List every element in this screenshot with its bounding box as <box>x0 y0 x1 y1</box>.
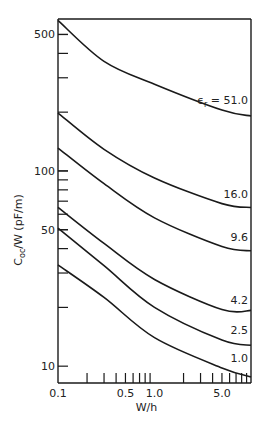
series-labels: ϵr = 51.016.09.64.22.51.0 <box>197 94 248 365</box>
x-axis-tick-labels: 0.10.51.05.0 <box>49 387 230 400</box>
y-tick-label: 100 <box>34 165 55 178</box>
series-label-value: = 51.0 <box>207 94 248 107</box>
x-tick-label: 0.1 <box>49 387 67 400</box>
x-tick-label: 0.5 <box>117 387 135 400</box>
y-tick-label: 500 <box>34 28 55 41</box>
x-axis-title: W/h <box>136 401 158 414</box>
y-axis-tick-labels: 1050100500 <box>34 28 55 373</box>
series-label: 9.6 <box>231 231 249 244</box>
y-axis-title-rest: /W (pF/m) <box>12 194 25 248</box>
series-curve <box>58 228 251 345</box>
plot-frame <box>58 19 251 383</box>
series-label: ϵr = 51.0 <box>197 94 248 109</box>
x-tick-label: 5.0 <box>213 387 231 400</box>
series-label-symbol: ϵ <box>197 94 204 107</box>
chart-canvas: 0.10.51.05.0 1050100500 ϵr = 51.016.09.6… <box>0 0 265 428</box>
y-tick-label: 50 <box>41 224 55 237</box>
series-curve <box>58 207 251 312</box>
series-curve <box>58 113 251 207</box>
series-curve <box>58 148 251 251</box>
series-curves <box>58 20 251 377</box>
series-label: 1.0 <box>231 352 249 365</box>
series-curve <box>58 265 251 377</box>
y-axis-title-sub: oc <box>18 249 27 258</box>
series-label: 16.0 <box>224 188 249 201</box>
x-axis-ticks <box>87 373 247 383</box>
y-axis-title: Coc/W (pF/m) <box>12 194 27 265</box>
series-label: 2.5 <box>231 324 249 337</box>
x-tick-label: 1.0 <box>146 387 164 400</box>
y-axis-ticks <box>58 34 68 366</box>
y-tick-label: 10 <box>41 360 55 373</box>
series-label: 4.2 <box>231 294 249 307</box>
